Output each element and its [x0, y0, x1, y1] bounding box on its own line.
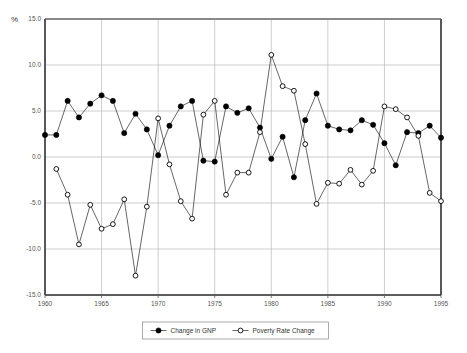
data-point	[382, 141, 387, 146]
x-tick-label: 1970	[151, 300, 166, 307]
data-point	[65, 98, 70, 103]
data-point	[416, 133, 421, 138]
data-point	[167, 162, 172, 167]
data-point	[348, 128, 353, 133]
data-point	[393, 163, 398, 168]
data-point	[201, 158, 206, 163]
legend-marker-filled-circle	[156, 328, 161, 333]
data-point	[405, 115, 410, 120]
data-point	[314, 91, 319, 96]
data-point	[99, 226, 104, 231]
x-axis-tick-labels: 19601965197019751980198519901995	[38, 295, 449, 307]
data-point	[269, 156, 274, 161]
data-point	[393, 107, 398, 112]
data-point	[99, 93, 104, 98]
data-point	[54, 167, 59, 172]
data-point	[292, 88, 297, 93]
data-point	[269, 52, 274, 57]
data-point	[337, 181, 342, 186]
y-axis-unit-label: %	[11, 15, 18, 24]
data-point	[110, 222, 115, 227]
data-point	[427, 190, 432, 195]
data-point	[224, 192, 229, 197]
legend-label: Change in GNP	[171, 327, 217, 335]
x-tick-label: 1980	[264, 300, 279, 307]
chart-legend: Change in GNPPoverty Rate Change	[143, 322, 329, 339]
data-point	[144, 127, 149, 132]
data-point	[201, 112, 206, 117]
x-tick-label: 1995	[434, 300, 449, 307]
x-tick-label: 1975	[207, 300, 222, 307]
y-tick-label: -15.0	[26, 291, 41, 298]
data-point	[190, 216, 195, 221]
data-point	[258, 130, 263, 135]
legend-label: Poverty Rate Change	[253, 327, 316, 335]
data-point	[235, 110, 240, 115]
data-point	[156, 153, 161, 158]
grid-lines	[45, 19, 441, 295]
y-tick-label: -10.0	[26, 245, 41, 252]
data-point	[133, 273, 138, 278]
y-tick-label: 15.0	[28, 15, 41, 22]
data-point	[54, 132, 59, 137]
data-point	[371, 122, 376, 127]
data-point	[223, 104, 228, 109]
data-point	[280, 134, 285, 139]
data-point	[404, 130, 409, 135]
chart-container: 15.010.05.00.0-5.0-10.0-15.0%19601965197…	[0, 0, 467, 353]
data-point	[212, 159, 217, 164]
data-point	[76, 115, 81, 120]
x-tick-label: 1960	[38, 300, 53, 307]
data-point	[122, 197, 127, 202]
series-line	[56, 55, 441, 276]
data-point	[359, 182, 364, 187]
data-point	[88, 101, 93, 106]
series-poverty-rate-change	[54, 52, 443, 278]
data-point	[212, 98, 217, 103]
data-point	[359, 118, 364, 123]
data-point	[167, 123, 172, 128]
y-tick-label: 0.0	[32, 153, 41, 160]
data-point	[133, 111, 138, 116]
data-point	[144, 204, 149, 209]
data-point	[189, 98, 194, 103]
legend-marker-open-circle	[238, 328, 243, 333]
data-point	[348, 167, 353, 172]
data-point	[382, 104, 387, 109]
y-tick-label: -5.0	[30, 199, 42, 206]
y-tick-label: 5.0	[32, 107, 41, 114]
data-point	[291, 175, 296, 180]
data-point	[178, 199, 183, 204]
data-point	[303, 118, 308, 123]
x-tick-label: 1965	[94, 300, 109, 307]
data-point	[337, 127, 342, 132]
data-point	[110, 98, 115, 103]
data-point	[178, 104, 183, 109]
line-chart: 15.010.05.00.0-5.0-10.0-15.0%19601965197…	[0, 0, 467, 353]
data-point	[438, 135, 443, 140]
data-point	[325, 123, 330, 128]
data-point	[88, 202, 93, 207]
data-point	[439, 199, 444, 204]
data-point	[42, 132, 47, 137]
data-point	[122, 130, 127, 135]
data-point	[77, 242, 82, 247]
data-point	[65, 192, 70, 197]
data-point	[303, 142, 308, 147]
data-point	[246, 106, 251, 111]
data-point	[280, 84, 285, 89]
data-point	[371, 168, 376, 173]
data-point	[325, 180, 330, 185]
data-point	[427, 123, 432, 128]
chart-page: 15.010.05.00.0-5.0-10.0-15.0%19601965197…	[0, 0, 467, 353]
data-point	[156, 116, 161, 121]
x-tick-label: 1990	[377, 300, 392, 307]
y-tick-label: 10.0	[28, 61, 41, 68]
y-axis-tick-labels: 15.010.05.00.0-5.0-10.0-15.0	[26, 15, 41, 298]
data-point	[235, 170, 240, 175]
x-tick-label: 1985	[321, 300, 336, 307]
data-point	[314, 202, 319, 207]
data-point	[246, 170, 251, 175]
